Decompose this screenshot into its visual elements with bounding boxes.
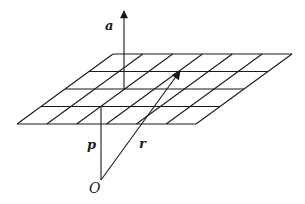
- vector-r-arrow: [101, 71, 180, 180]
- diagram-canvas: [0, 0, 305, 204]
- origin-label: O: [89, 181, 100, 195]
- vector-r-label: r: [139, 137, 146, 150]
- vector-a-label: a: [105, 19, 113, 32]
- plane-vector-diagram: a p r O: [0, 0, 305, 204]
- plane-grid: [17, 54, 292, 124]
- vector-p-label: p: [87, 138, 96, 151]
